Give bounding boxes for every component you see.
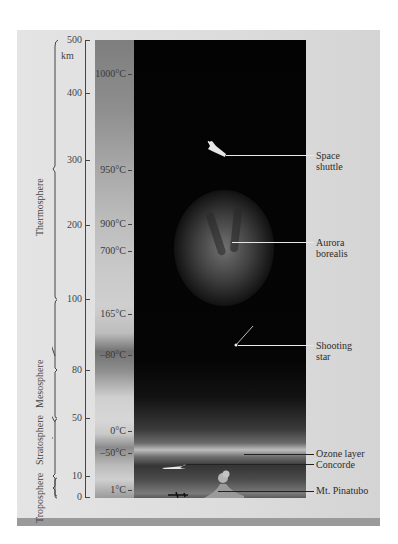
region-label-stratosphere: Stratosphere bbox=[34, 415, 45, 465]
temp-label-700: 700°C bbox=[100, 246, 126, 256]
axis-tick-50 bbox=[85, 418, 90, 419]
temp-tick bbox=[128, 431, 132, 432]
callout-line: Shooting bbox=[316, 340, 352, 351]
callout-line: shuttle bbox=[316, 161, 343, 172]
temp-label-minus80: –80°C bbox=[100, 350, 126, 360]
space-shuttle-pointer bbox=[226, 155, 314, 156]
aurora-streak bbox=[230, 208, 243, 253]
concorde-pointer bbox=[186, 464, 314, 465]
temp-label-165: 165°C bbox=[100, 309, 126, 319]
airplane-icon bbox=[168, 492, 188, 498]
temp-tick bbox=[128, 314, 132, 315]
mt-pinatubo-icon bbox=[204, 470, 244, 498]
region-label-thermosphere: Thermosphere bbox=[34, 178, 45, 236]
shooting-star-icon bbox=[234, 325, 254, 347]
axis-tick-300 bbox=[85, 160, 90, 161]
temp-tick bbox=[128, 490, 132, 491]
ozone-layer-pointer bbox=[244, 454, 314, 455]
temp-tick bbox=[128, 251, 132, 252]
axis-tick-500 bbox=[85, 40, 90, 41]
temp-label-minus50: –50°C bbox=[100, 448, 126, 458]
temp-tick bbox=[128, 170, 132, 171]
aurora-streak bbox=[205, 212, 226, 256]
axis-tick-200 bbox=[85, 225, 90, 226]
callout-line: Space bbox=[316, 150, 343, 161]
region-label-troposphere: Troposphere bbox=[34, 473, 45, 523]
temp-tick bbox=[128, 224, 132, 225]
callout-shooting-star: Shooting star bbox=[316, 340, 352, 362]
callout-concorde: Concorde bbox=[316, 459, 355, 470]
temp-tick bbox=[128, 453, 132, 454]
temp-tick bbox=[128, 74, 132, 75]
altitude-axis-line bbox=[85, 40, 86, 498]
atmosphere-illustration bbox=[134, 40, 306, 498]
aurora-pointer bbox=[232, 242, 314, 243]
temp-tick bbox=[128, 355, 132, 356]
concorde-icon bbox=[162, 463, 186, 471]
callout-aurora-borealis: Aurora borealis bbox=[316, 237, 348, 259]
callout-line: Aurora bbox=[316, 237, 348, 248]
axis-tick-100 bbox=[85, 299, 90, 300]
mt-pinatubo-pointer bbox=[218, 491, 314, 492]
bottom-divider-bar bbox=[17, 518, 380, 526]
axis-tick-0 bbox=[85, 497, 90, 498]
temp-label-1000: 1000°C bbox=[95, 69, 126, 79]
temp-label-0: 0°C bbox=[110, 426, 126, 436]
temp-label-900: 900°C bbox=[100, 219, 126, 229]
thermosphere-brace bbox=[53, 40, 58, 299]
axis-tick-80 bbox=[85, 370, 90, 371]
shooting-star-pointer bbox=[238, 345, 314, 346]
callout-mt-pinatubo: Mt. Pinatubo bbox=[316, 485, 368, 496]
space-shuttle-icon bbox=[206, 140, 228, 158]
temp-label-1: 1°C bbox=[110, 485, 126, 495]
temp-label-950: 950°C bbox=[100, 165, 126, 175]
axis-tick-10 bbox=[85, 476, 90, 477]
callout-line: star bbox=[316, 351, 352, 362]
callout-line: borealis bbox=[316, 248, 348, 259]
region-braces bbox=[52, 38, 82, 508]
region-label-mesosphere: Mesosphere bbox=[34, 360, 45, 408]
axis-tick-400 bbox=[85, 93, 90, 94]
callout-ozone-layer: Ozone layer bbox=[316, 448, 365, 459]
aurora-borealis-glow bbox=[174, 190, 274, 306]
callout-space-shuttle: Space shuttle bbox=[316, 150, 343, 172]
